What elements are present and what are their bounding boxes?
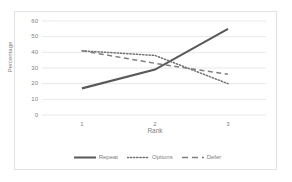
legend-label-repeat: Repeat xyxy=(99,154,118,160)
y-axis-tick-10: 10 xyxy=(24,96,38,103)
legend-item-options[interactable]: Options xyxy=(127,154,173,161)
y-axis-tick-50: 50 xyxy=(24,33,38,40)
y-axis-label: Percentage xyxy=(7,35,13,79)
chart-legend: Repeat Options Defer xyxy=(55,150,240,164)
series-line-defer xyxy=(82,51,228,75)
x-axis-label: Rank xyxy=(75,127,235,134)
legend-label-defer: Defer xyxy=(207,154,222,160)
legend-label-options: Options xyxy=(152,154,173,160)
legend-item-repeat[interactable]: Repeat xyxy=(74,154,118,161)
series-line-repeat xyxy=(82,29,228,89)
y-axis-tick-60: 60 xyxy=(24,18,38,25)
legend-line-dashed-icon xyxy=(182,154,204,161)
y-axis-tick-0: 0 xyxy=(24,112,38,119)
y-axis-tick-30: 30 xyxy=(24,65,38,72)
y-axis-tick-40: 40 xyxy=(24,49,38,56)
gridlines xyxy=(42,21,266,115)
legend-item-defer[interactable]: Defer xyxy=(182,154,222,161)
legend-line-dotted-icon xyxy=(127,154,149,161)
series-lines xyxy=(82,29,228,89)
y-axis-tick-20: 20 xyxy=(24,80,38,87)
legend-line-solid-icon xyxy=(74,154,96,161)
series-line-options xyxy=(82,51,228,84)
